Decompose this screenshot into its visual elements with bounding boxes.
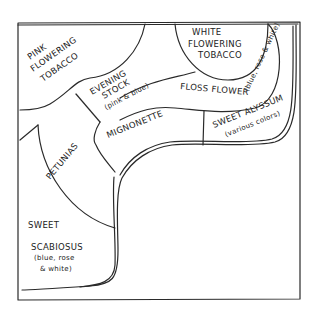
svg-text:SCABIOSUS: SCABIOSUS <box>31 242 83 252</box>
svg-text:FLOWERING: FLOWERING <box>188 39 242 49</box>
garden-plan-drawing: PINK FLOWERING TOBACCO WHITE FLOWERING T… <box>0 0 316 314</box>
svg-text:SWEET: SWEET <box>28 220 60 230</box>
bed-label-petunias: PETUNIAS <box>44 141 80 181</box>
svg-text:(blue, rose & white): (blue, rose & white) <box>243 21 282 92</box>
svg-text:WHITE: WHITE <box>192 27 221 37</box>
bed-label-pink-flowering-tobacco: PINK FLOWERING TOBACCO <box>25 35 80 85</box>
svg-text:TOBACCO: TOBACCO <box>197 50 242 60</box>
svg-text:(blue, rose: (blue, rose <box>34 254 75 262</box>
bed-label-sweet-alyssum: SWEET ALYSSUM (various colors) <box>211 92 285 138</box>
svg-text:& white): & white) <box>40 265 72 273</box>
bed-label-sweet-scabiosus: SWEET SCABIOSUS (blue, rose & white) <box>28 220 83 273</box>
svg-text:FLOSS FLOWER: FLOSS FLOWER <box>180 81 249 97</box>
bed-label-white-flowering-tobacco: WHITE FLOWERING TOBACCO <box>188 27 242 60</box>
bed-label-evening-stock: EVENING STOCK (pink & blue) <box>88 68 150 112</box>
svg-text:PETUNIAS: PETUNIAS <box>44 141 80 181</box>
